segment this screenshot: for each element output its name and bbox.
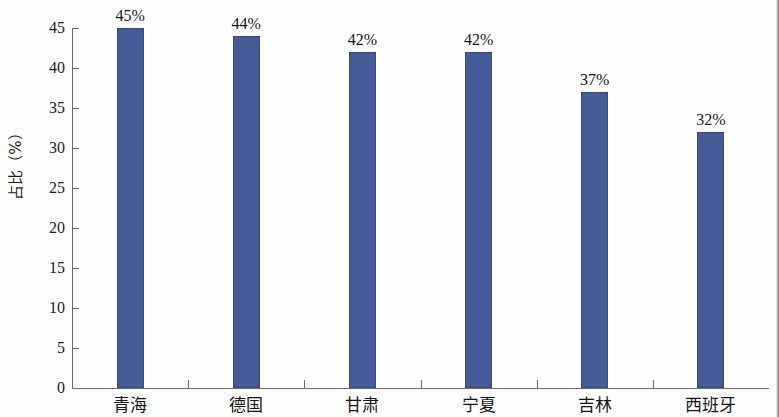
x-tick-mark <box>188 380 189 388</box>
y-tick-mark <box>72 308 79 309</box>
y-tick-label: 0 <box>57 378 65 398</box>
x-tick-mark <box>421 380 422 388</box>
y-tick-mark <box>72 348 79 349</box>
bar[interactable]: 42% <box>349 52 376 388</box>
bar[interactable]: 44% <box>233 36 260 388</box>
bar-value-label: 42% <box>348 30 377 49</box>
y-tick-25: 25 <box>72 188 79 189</box>
y-tick-label: 45 <box>49 18 65 38</box>
x-axis-label-宁夏: 宁夏 <box>462 394 496 416</box>
y-tick-mark <box>72 268 79 269</box>
bar-chart-figure: 占比（%） 051015202530354045 45%44%42%42%37%… <box>0 0 779 417</box>
y-tick-40: 40 <box>72 68 79 69</box>
y-tick-mark <box>72 68 79 69</box>
y-tick-45: 45 <box>72 28 79 29</box>
x-axis-label-吉林: 吉林 <box>578 394 612 416</box>
y-tick-mark <box>72 28 79 29</box>
y-tick-35: 35 <box>72 108 79 109</box>
y-tick-label: 30 <box>49 138 65 158</box>
y-tick-30: 30 <box>72 148 79 149</box>
y-tick-mark <box>72 148 79 149</box>
bar[interactable]: 45% <box>117 28 144 388</box>
y-axis-title: 占比（%） <box>4 108 25 218</box>
y-tick-label: 35 <box>49 98 65 118</box>
x-tick-mark <box>537 380 538 388</box>
y-tick-label: 5 <box>57 338 65 358</box>
x-axis-label-甘肃: 甘肃 <box>345 394 379 416</box>
bar-value-label: 32% <box>696 110 725 129</box>
y-tick-mark <box>72 228 79 229</box>
bar-value-label: 42% <box>464 30 493 49</box>
y-axis-line <box>72 28 73 388</box>
x-axis-label-德国: 德国 <box>229 394 263 416</box>
y-tick-label: 25 <box>49 178 65 198</box>
x-tick-mark <box>304 380 305 388</box>
y-tick-15: 15 <box>72 268 79 269</box>
bar-slot-青海: 45% <box>117 20 144 388</box>
y-tick-mark <box>72 188 79 189</box>
bar-value-label: 37% <box>580 70 609 89</box>
y-tick-mark <box>72 388 79 389</box>
bar-slot-西班牙: 32% <box>697 20 724 388</box>
y-tick-label: 15 <box>49 258 65 278</box>
bar[interactable]: 37% <box>581 92 608 388</box>
bar-slot-德国: 44% <box>233 20 260 388</box>
bar[interactable]: 42% <box>465 52 492 388</box>
bar-slot-吉林: 37% <box>581 20 608 388</box>
bar-value-label: 44% <box>232 14 261 33</box>
x-tick-mark <box>653 380 654 388</box>
plot-area: 051015202530354045 45%44%42%42%37%32% 青海… <box>72 20 769 388</box>
y-tick-label: 40 <box>49 58 65 78</box>
y-tick-5: 5 <box>72 348 79 349</box>
bar-slot-甘肃: 42% <box>349 20 376 388</box>
y-tick-0: 0 <box>72 388 79 389</box>
bar-slot-宁夏: 42% <box>465 20 492 388</box>
x-axis-label-青海: 青海 <box>113 394 147 416</box>
bar[interactable]: 32% <box>697 132 724 388</box>
bar-value-label: 45% <box>115 6 144 25</box>
x-axis-line <box>72 388 769 389</box>
y-tick-mark <box>72 108 79 109</box>
x-axis-label-西班牙: 西班牙 <box>685 394 736 416</box>
y-tick-20: 20 <box>72 228 79 229</box>
y-tick-label: 20 <box>49 218 65 238</box>
y-tick-label: 10 <box>49 298 65 318</box>
y-tick-10: 10 <box>72 308 79 309</box>
